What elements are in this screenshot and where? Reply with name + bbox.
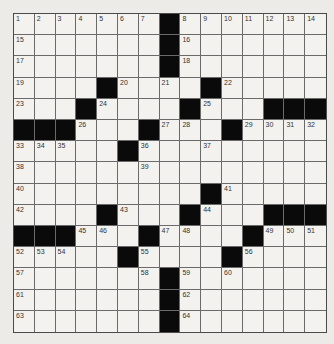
answer-cell[interactable]: 9 (201, 14, 222, 35)
answer-cell[interactable] (56, 78, 77, 99)
answer-cell[interactable] (264, 247, 285, 268)
answer-cell[interactable] (222, 226, 243, 247)
answer-cell[interactable] (35, 205, 56, 226)
answer-cell[interactable] (264, 311, 285, 332)
answer-cell[interactable] (76, 205, 97, 226)
answer-cell[interactable]: 38 (14, 162, 35, 183)
answer-cell[interactable] (201, 56, 222, 77)
answer-cell[interactable]: 32 (305, 120, 326, 141)
answer-cell[interactable] (264, 184, 285, 205)
answer-cell[interactable] (243, 184, 264, 205)
answer-cell[interactable] (76, 247, 97, 268)
answer-cell[interactable]: 49 (264, 226, 285, 247)
answer-cell[interactable]: 21 (160, 78, 181, 99)
answer-cell[interactable] (243, 290, 264, 311)
answer-cell[interactable] (284, 56, 305, 77)
answer-cell[interactable]: 43 (118, 205, 139, 226)
answer-cell[interactable]: 55 (139, 247, 160, 268)
answer-cell[interactable] (118, 120, 139, 141)
answer-cell[interactable] (201, 311, 222, 332)
answer-cell[interactable] (305, 184, 326, 205)
answer-cell[interactable]: 63 (14, 311, 35, 332)
answer-cell[interactable] (56, 311, 77, 332)
answer-cell[interactable] (160, 247, 181, 268)
answer-cell[interactable] (201, 290, 222, 311)
answer-cell[interactable] (243, 205, 264, 226)
answer-cell[interactable] (222, 205, 243, 226)
answer-cell[interactable] (305, 141, 326, 162)
answer-cell[interactable]: 34 (35, 141, 56, 162)
answer-cell[interactable] (264, 141, 285, 162)
answer-cell[interactable]: 45 (76, 226, 97, 247)
answer-cell[interactable] (160, 205, 181, 226)
answer-cell[interactable]: 19 (14, 78, 35, 99)
answer-cell[interactable]: 22 (222, 78, 243, 99)
answer-cell[interactable] (305, 311, 326, 332)
answer-cell[interactable] (139, 35, 160, 56)
answer-cell[interactable]: 8 (180, 14, 201, 35)
answer-cell[interactable] (201, 247, 222, 268)
answer-cell[interactable] (56, 290, 77, 311)
answer-cell[interactable]: 59 (180, 268, 201, 289)
answer-cell[interactable] (35, 311, 56, 332)
answer-cell[interactable] (305, 78, 326, 99)
answer-cell[interactable] (222, 141, 243, 162)
answer-cell[interactable] (76, 141, 97, 162)
answer-cell[interactable]: 4 (76, 14, 97, 35)
answer-cell[interactable] (222, 162, 243, 183)
answer-cell[interactable] (243, 78, 264, 99)
answer-cell[interactable]: 57 (14, 268, 35, 289)
answer-cell[interactable]: 62 (180, 290, 201, 311)
answer-cell[interactable]: 7 (139, 14, 160, 35)
answer-cell[interactable] (35, 35, 56, 56)
answer-cell[interactable]: 30 (264, 120, 285, 141)
answer-cell[interactable] (56, 99, 77, 120)
answer-cell[interactable] (160, 162, 181, 183)
answer-cell[interactable] (160, 141, 181, 162)
answer-cell[interactable] (76, 290, 97, 311)
answer-cell[interactable]: 44 (201, 205, 222, 226)
answer-cell[interactable] (222, 56, 243, 77)
answer-cell[interactable]: 52 (14, 247, 35, 268)
answer-cell[interactable]: 14 (305, 14, 326, 35)
answer-cell[interactable] (97, 268, 118, 289)
answer-cell[interactable]: 51 (305, 226, 326, 247)
answer-cell[interactable] (118, 290, 139, 311)
answer-cell[interactable] (284, 184, 305, 205)
answer-cell[interactable] (201, 35, 222, 56)
answer-cell[interactable] (180, 141, 201, 162)
answer-cell[interactable] (56, 184, 77, 205)
answer-cell[interactable] (76, 56, 97, 77)
answer-cell[interactable] (76, 268, 97, 289)
answer-cell[interactable]: 46 (97, 226, 118, 247)
answer-cell[interactable] (201, 226, 222, 247)
answer-cell[interactable] (284, 247, 305, 268)
answer-cell[interactable] (243, 311, 264, 332)
answer-cell[interactable] (284, 35, 305, 56)
answer-cell[interactable] (118, 268, 139, 289)
answer-cell[interactable] (118, 226, 139, 247)
answer-cell[interactable] (284, 162, 305, 183)
answer-cell[interactable]: 33 (14, 141, 35, 162)
answer-cell[interactable]: 60 (222, 268, 243, 289)
answer-cell[interactable] (243, 141, 264, 162)
answer-cell[interactable] (243, 56, 264, 77)
answer-cell[interactable] (305, 247, 326, 268)
answer-cell[interactable]: 5 (97, 14, 118, 35)
answer-cell[interactable] (76, 162, 97, 183)
answer-cell[interactable] (139, 290, 160, 311)
answer-cell[interactable] (76, 184, 97, 205)
answer-cell[interactable] (97, 162, 118, 183)
answer-cell[interactable]: 12 (264, 14, 285, 35)
answer-cell[interactable]: 56 (243, 247, 264, 268)
answer-cell[interactable]: 17 (14, 56, 35, 77)
answer-cell[interactable]: 58 (139, 268, 160, 289)
answer-cell[interactable] (56, 162, 77, 183)
answer-cell[interactable] (201, 120, 222, 141)
answer-cell[interactable] (284, 78, 305, 99)
answer-cell[interactable]: 11 (243, 14, 264, 35)
answer-cell[interactable]: 13 (284, 14, 305, 35)
answer-cell[interactable] (243, 35, 264, 56)
answer-cell[interactable] (305, 162, 326, 183)
answer-cell[interactable] (139, 184, 160, 205)
